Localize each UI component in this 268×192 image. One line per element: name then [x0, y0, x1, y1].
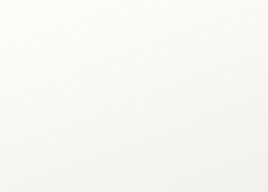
balloon-1-knot [32, 185, 35, 189]
galaxy-marker-a: A [167, 117, 180, 130]
galaxy-dot [114, 122, 125, 133]
galaxy-marker-d: D [11, 120, 22, 131]
text-line: e, we see galaxies t [0, 0, 118, 2]
figure-page: D C B A C B A D C B A e, we see galaxi [0, 0, 268, 192]
body-text-top: e, we see galaxies t vere 1 billion year… [0, 0, 118, 48]
pointer-arrow-icon [204, 146, 226, 162]
body-text-bottom: th dime mu [208, 162, 268, 192]
balloon-3-knot [146, 157, 149, 161]
text-line: th [208, 162, 268, 175]
balloon-3-highlight [120, 61, 154, 86]
balloon-2-knot [91, 173, 94, 177]
scan-smudge [91, 169, 98, 172]
balloon-1: D C B A [2, 116, 65, 184]
text-line: dime [208, 174, 268, 187]
galaxy-dot [83, 85, 94, 95]
galaxy-marker-a: A [12, 168, 23, 179]
text-line: mu [208, 187, 268, 192]
galaxy-marker-c: C [148, 53, 161, 66]
galaxy-dot [53, 108, 64, 119]
text-line: vere 1 billion years [0, 2, 118, 14]
balloon-2-highlight [69, 97, 99, 119]
galaxy-dot [99, 66, 111, 78]
galaxy-marker-b: B [5, 153, 16, 164]
galaxy-dot [69, 143, 80, 154]
scan-smudge [31, 180, 40, 184]
balloon-4-highlight [188, 26, 228, 60]
galaxy-marker-b: B [148, 90, 161, 103]
galaxy-marker-c: C [4, 136, 15, 147]
galaxy-marker-d: D [182, 19, 196, 33]
scan-smudge [219, 186, 230, 190]
text-line: encoded [0, 37, 118, 49]
